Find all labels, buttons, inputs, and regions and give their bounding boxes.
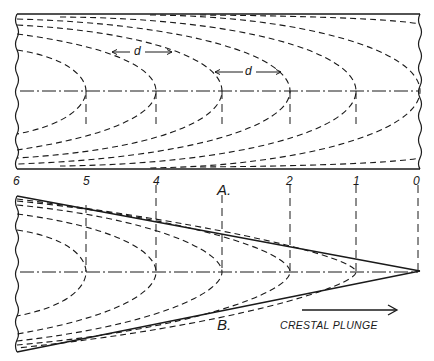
distance-label-1: d <box>134 45 141 57</box>
section-number-6: 6 <box>13 175 20 187</box>
contour-outer-bottom <box>200 158 420 167</box>
section-number-0: 0 <box>413 175 420 187</box>
distance-arrow-1 <box>112 50 172 55</box>
panel-b-left-break <box>16 196 19 352</box>
contour-b-2 <box>17 201 290 345</box>
section-number-2: 2 <box>286 175 293 187</box>
panel-b-bottom-edge <box>17 271 420 352</box>
section-number-1: 1 <box>353 175 360 187</box>
contour-5 <box>17 50 86 134</box>
panel-a-label: A. <box>217 182 231 197</box>
crestal-plunge-caption: CRESTAL PLUNGE <box>280 320 378 331</box>
section-number-5: 5 <box>83 175 90 187</box>
panel-b-label: B. <box>217 317 231 332</box>
plunge-arrow <box>302 305 397 315</box>
section-number-4: 4 <box>153 175 160 187</box>
panel-a <box>16 14 422 169</box>
panel-a-left-break <box>16 14 19 169</box>
contour-b-5 <box>17 230 86 316</box>
distance-label-2: d <box>245 65 252 77</box>
contour-b-3 <box>17 205 222 341</box>
